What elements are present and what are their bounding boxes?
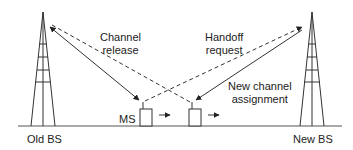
new-channel-line1: New channel: [228, 80, 292, 93]
channel-release-line2: release: [100, 44, 141, 57]
old-bs-tower-icon: [31, 12, 55, 126]
ms-device-icon: [140, 102, 152, 126]
handoff-diagram: Channel release Handoff request New chan…: [0, 0, 353, 150]
old-bs-label: Old BS: [27, 133, 62, 146]
channel-release-label: Channel release: [100, 31, 141, 57]
new-channel-assignment-label: New channel assignment: [228, 80, 292, 106]
channel-release-line1: Channel: [100, 31, 141, 44]
new-channel-line2: assignment: [228, 93, 292, 106]
new-bs-tower-icon: [300, 12, 324, 126]
new-bs-label: New BS: [293, 133, 333, 146]
handoff-request-label: Handoff request: [205, 31, 243, 57]
ms-device-moved-icon: [189, 102, 201, 126]
handoff-request-line1: Handoff: [205, 31, 243, 44]
ms-label: MS: [119, 113, 136, 126]
diagram-graphics: [0, 0, 353, 150]
handoff-request-line2: request: [205, 44, 243, 57]
